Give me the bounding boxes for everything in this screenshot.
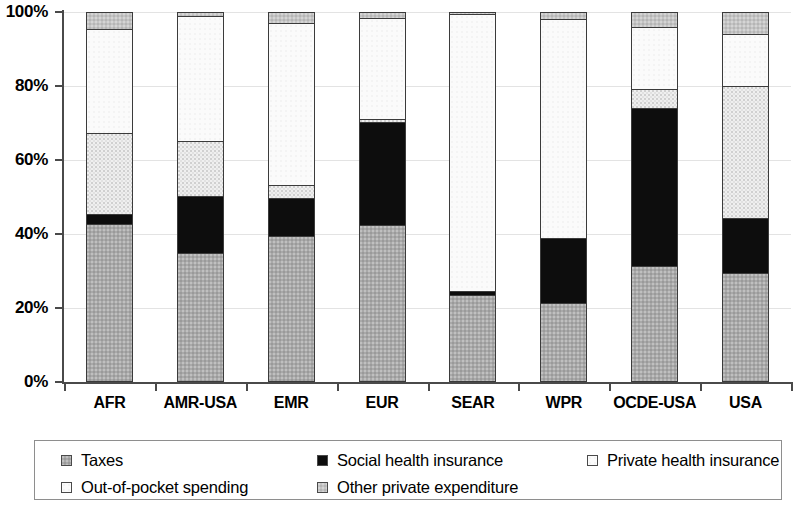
bar-segment-usa-social-health-insurance[interactable]: [723, 219, 768, 274]
legend-swatch-private-health-insurance-icon: [587, 455, 598, 466]
y-axis: 100% 80% 60% 40% 20% 0%: [0, 0, 58, 432]
bar-segment-emr-private-health-insurance[interactable]: [269, 186, 314, 199]
bar-wpr[interactable]: [540, 12, 587, 382]
legend-item-taxes[interactable]: Taxes: [35, 451, 317, 470]
bar-segment-afr-taxes[interactable]: [87, 225, 132, 381]
legend-label-private-health-insurance: Private health insurance: [607, 451, 779, 470]
bar-segment-emr-social-health-insurance[interactable]: [269, 199, 314, 238]
x-tick-mark-5: [518, 382, 520, 391]
bar-slot-amr-usa: [155, 12, 246, 382]
y-tick-label-0: 0%: [24, 372, 48, 392]
chart-legend: Taxes Social health insurance Private he…: [34, 440, 782, 500]
bar-segment-usa-other-private-expenditure[interactable]: [723, 13, 768, 35]
bar-slot-wpr: [518, 12, 609, 382]
bar-segment-ocde-usa-taxes[interactable]: [632, 267, 677, 381]
bar-slot-emr: [246, 12, 337, 382]
legend-swatch-other-private-expenditure-icon: [317, 482, 328, 493]
bar-usa[interactable]: [722, 12, 769, 382]
legend-item-other-private-expenditure[interactable]: Other private expenditure: [317, 478, 587, 497]
bar-segment-usa-out-of-pocket-spending[interactable]: [723, 35, 768, 87]
bar-eur[interactable]: [359, 12, 406, 382]
x-tick-mark-2: [246, 382, 248, 391]
bar-segment-usa-private-health-insurance[interactable]: [723, 87, 768, 219]
plot-area: [64, 12, 791, 382]
bar-segment-afr-other-private-expenditure[interactable]: [87, 13, 132, 30]
x-axis-label-usa: USA: [700, 394, 791, 420]
x-axis-label-afr: AFR: [64, 394, 155, 420]
bar-group: [64, 12, 791, 382]
x-axis-label-wpr: WPR: [518, 394, 609, 420]
stacked-bar-chart: 100% 80% 60% 40% 20% 0% AFRAMR-USAEMREUR…: [0, 0, 811, 432]
legend-label-social-health-insurance: Social health insurance: [337, 451, 503, 470]
x-axis-label-eur: EUR: [337, 394, 428, 420]
x-tick-mark-6: [609, 382, 611, 391]
bar-slot-usa: [700, 12, 791, 382]
y-tick-label-20: 20%: [15, 298, 48, 318]
bar-sear[interactable]: [449, 12, 496, 382]
x-tick-mark-4: [428, 382, 430, 391]
x-axis-label-emr: EMR: [246, 394, 337, 420]
y-tick-label-60: 60%: [15, 150, 48, 170]
bar-amr-usa[interactable]: [177, 12, 224, 382]
x-tick-mark-8: [791, 382, 793, 391]
legend-row-2: Out-of-pocket spending Other private exp…: [35, 474, 781, 501]
bar-segment-amr-usa-taxes[interactable]: [178, 254, 223, 381]
bar-segment-sear-taxes[interactable]: [450, 296, 495, 381]
bar-segment-emr-taxes[interactable]: [269, 237, 314, 381]
legend-label-taxes: Taxes: [81, 451, 123, 470]
bar-segment-amr-usa-private-health-insurance[interactable]: [178, 142, 223, 197]
bar-emr[interactable]: [268, 12, 315, 382]
bar-segment-eur-taxes[interactable]: [360, 226, 405, 381]
bar-segment-wpr-social-health-insurance[interactable]: [541, 239, 586, 303]
bar-segment-amr-usa-social-health-insurance[interactable]: [178, 197, 223, 254]
bar-segment-afr-private-health-insurance[interactable]: [87, 134, 132, 215]
bar-segment-ocde-usa-out-of-pocket-spending[interactable]: [632, 28, 677, 91]
bar-segment-ocde-usa-other-private-expenditure[interactable]: [632, 13, 677, 28]
bar-afr[interactable]: [86, 12, 133, 382]
bar-ocde-usa[interactable]: [631, 12, 678, 382]
bar-segment-amr-usa-out-of-pocket-spending[interactable]: [178, 17, 223, 142]
legend-swatch-out-of-pocket-spending-icon: [61, 482, 72, 493]
y-tick-label-80: 80%: [15, 76, 48, 96]
legend-item-social-health-insurance[interactable]: Social health insurance: [317, 451, 587, 470]
bar-segment-emr-other-private-expenditure[interactable]: [269, 13, 314, 24]
bar-slot-eur: [337, 12, 428, 382]
legend-item-out-of-pocket-spending[interactable]: Out-of-pocket spending: [35, 478, 317, 497]
bar-slot-sear: [428, 12, 519, 382]
bar-segment-wpr-other-private-expenditure[interactable]: [541, 13, 586, 20]
bar-segment-afr-social-health-insurance[interactable]: [87, 215, 132, 224]
x-tick-mark-0: [64, 382, 66, 391]
y-tick-label-40: 40%: [15, 224, 48, 244]
y-tick-label-100: 100%: [6, 2, 48, 22]
x-axis-label-sear: SEAR: [428, 394, 519, 420]
bar-slot-afr: [64, 12, 155, 382]
bar-segment-usa-taxes[interactable]: [723, 274, 768, 381]
x-axis-label-ocde-usa: OCDE-USA: [609, 394, 700, 420]
legend-label-out-of-pocket-spending: Out-of-pocket spending: [81, 478, 248, 497]
legend-label-other-private-expenditure: Other private expenditure: [337, 478, 518, 497]
bar-slot-ocde-usa: [609, 12, 700, 382]
bar-segment-ocde-usa-social-health-insurance[interactable]: [632, 109, 677, 267]
legend-swatch-social-health-insurance-icon: [317, 455, 328, 466]
bar-segment-wpr-taxes[interactable]: [541, 304, 586, 381]
bar-segment-wpr-out-of-pocket-spending[interactable]: [541, 20, 586, 239]
bar-segment-sear-out-of-pocket-spending[interactable]: [450, 15, 495, 292]
legend-swatch-taxes-icon: [61, 455, 72, 466]
x-tick-mark-7: [700, 382, 702, 391]
x-axis-labels: AFRAMR-USAEMREURSEARWPROCDE-USAUSA: [64, 394, 791, 420]
bar-segment-eur-social-health-insurance[interactable]: [360, 123, 405, 226]
legend-item-private-health-insurance[interactable]: Private health insurance: [587, 451, 779, 470]
legend-row-1: Taxes Social health insurance Private he…: [35, 447, 781, 474]
bar-segment-afr-out-of-pocket-spending[interactable]: [87, 30, 132, 135]
x-tick-mark-3: [337, 382, 339, 391]
bar-segment-emr-out-of-pocket-spending[interactable]: [269, 24, 314, 186]
bar-segment-ocde-usa-private-health-insurance[interactable]: [632, 90, 677, 108]
bar-segment-eur-out-of-pocket-spending[interactable]: [360, 19, 405, 120]
x-axis-label-amr-usa: AMR-USA: [155, 394, 246, 420]
x-tick-mark-1: [155, 382, 157, 391]
